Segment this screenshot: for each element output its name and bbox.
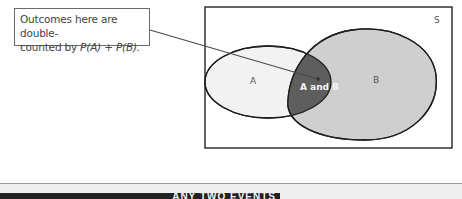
sample-space-label: S xyxy=(434,15,440,25)
callout-line-1: Outcomes here are double- xyxy=(20,12,144,40)
section-header-bar: ANY TWO EVENTS xyxy=(0,193,280,199)
callout-line-2-prefix: counted by xyxy=(20,41,80,53)
set-b-label: B xyxy=(373,75,379,85)
section-header-text: ANY TWO EVENTS xyxy=(172,193,276,199)
callout-line-2: counted by P(A) + P(B). xyxy=(20,40,144,54)
callout-formula: P(A) + P(B). xyxy=(80,41,140,53)
pointer-dot xyxy=(316,77,320,81)
intersection-label: A and B xyxy=(300,82,339,92)
set-a-label: A xyxy=(250,76,257,86)
callout-box: Outcomes here are double- counted by P(A… xyxy=(14,8,150,46)
